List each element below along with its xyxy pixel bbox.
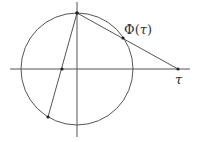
phi-variable: τ [140,22,147,37]
diagram-canvas [0,0,202,142]
tau-label: τ [175,73,182,86]
north-pole-point [75,11,79,15]
tau-point [176,67,179,70]
phi-prefix: Φ( [124,22,140,37]
phi-tau-label: Φ(τ) [124,23,152,36]
axis-point [60,67,63,70]
line-north-to-lower [48,13,77,117]
phi-suffix: ) [147,22,152,37]
lower-circle-point [46,115,49,118]
tau-variable: τ [175,72,182,87]
stereographic-projection-diagram: Φ(τ) τ [0,0,202,142]
